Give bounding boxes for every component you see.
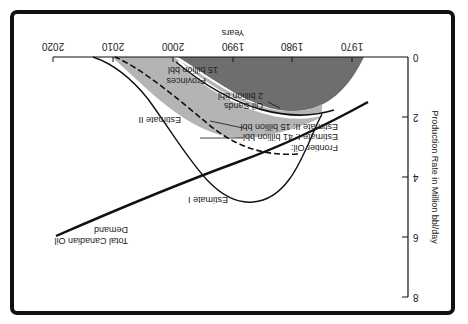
y-tick: 0 — [413, 52, 419, 63]
estimate-i-volume: Estimate I: 41 billion bbl — [243, 132, 338, 142]
x-tick: 1980 — [280, 41, 303, 52]
chart-svg: 1970 1980 1990 2000 2010 2020 Years 0 2 … — [0, 0, 468, 324]
demand-label: Total Canadian Oil — [54, 236, 128, 246]
y-axis-label: Production Rate in Million bbl/day — [430, 110, 440, 244]
x-tick: 1970 — [340, 41, 363, 52]
estimate-i-label: Estimate I — [188, 195, 228, 205]
estimate-ii-volume: Estimate II: 15 billion bbl — [240, 122, 338, 132]
x-tick: 2000 — [161, 41, 184, 52]
x-axis-label: Years — [221, 28, 244, 38]
provinces-volume: 15 billion bbl — [168, 65, 218, 75]
estimate-ii-label: Estimate II — [138, 115, 181, 125]
oil-sands-label: Oil Sands — [223, 101, 263, 111]
oil-sands-volume: 2 billion bbl — [218, 91, 263, 101]
y-tick: 8 — [413, 292, 419, 303]
frontier-label: Frontier Oil: — [291, 143, 338, 153]
x-tick: 1990 — [221, 41, 244, 52]
y-tick: 4 — [413, 172, 419, 183]
x-tick: 2010 — [101, 41, 124, 52]
chart-figure: 1970 1980 1990 2000 2010 2020 Years 0 2 … — [0, 0, 468, 324]
provinces-label: Provinces — [166, 76, 206, 86]
x-tick: 2020 — [41, 41, 64, 52]
y-tick: 2 — [413, 112, 419, 123]
y-tick: 6 — [413, 232, 419, 243]
demand-label-2: Demand — [94, 225, 128, 235]
